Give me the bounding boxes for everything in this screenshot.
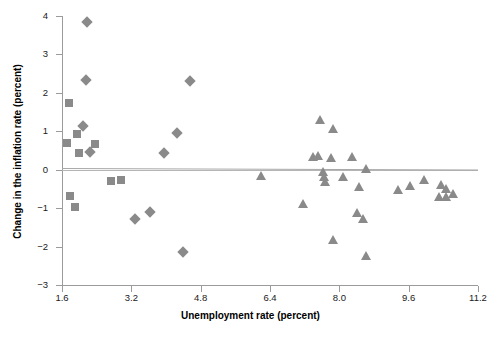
data-point-diamond: [129, 213, 140, 224]
data-point-triangle: [361, 164, 371, 173]
x-axis-tick-label: 4.8: [181, 292, 221, 303]
data-point-triangle: [328, 124, 338, 133]
x-axis-tick-label: 6.4: [250, 292, 290, 303]
data-point-triangle: [315, 115, 325, 124]
data-point-triangle: [338, 172, 348, 181]
data-point-triangle: [256, 171, 266, 180]
data-point-square: [65, 99, 73, 107]
data-point-diamond: [144, 206, 155, 217]
x-axis-tick-label: 8.0: [319, 292, 359, 303]
data-point-square: [107, 177, 115, 185]
y-axis-tick-label: −3: [26, 279, 48, 290]
data-point-diamond: [158, 147, 169, 158]
data-point-triangle: [358, 214, 368, 223]
y-axis-tick-label: −1: [26, 202, 48, 213]
x-axis-tick-label: 3.2: [111, 292, 151, 303]
y-axis-tick-label: 3: [26, 48, 48, 59]
data-point-square: [71, 203, 79, 211]
x-axis-tick-label: 9.6: [389, 292, 429, 303]
y-axis-tick-label: 1: [26, 125, 48, 136]
data-point-diamond: [81, 16, 92, 27]
data-point-triangle: [326, 153, 336, 162]
data-point-triangle: [313, 151, 323, 160]
data-point-diamond: [178, 246, 189, 257]
data-point-triangle: [347, 152, 357, 161]
data-point-square: [66, 192, 74, 200]
data-point-square: [63, 139, 71, 147]
data-point-square: [91, 140, 99, 148]
data-point-triangle: [361, 251, 371, 260]
y-axis-title: Change in the inflation rate (percent): [12, 32, 23, 272]
data-point-square: [75, 149, 83, 157]
y-axis-tick-label: 4: [26, 10, 48, 21]
data-point-triangle: [419, 175, 429, 184]
x-axis-tick-label: 11.2: [458, 292, 498, 303]
data-point-triangle: [405, 181, 415, 190]
data-point-square: [117, 176, 125, 184]
y-axis-tick-label: −2: [26, 241, 48, 252]
data-point-triangle: [328, 235, 338, 244]
scatter-chart: 43210−1−2−3 1.63.24.86.48.09.611.2 Unemp…: [0, 0, 501, 353]
data-point-diamond: [81, 75, 92, 86]
plot-area: [62, 16, 478, 285]
data-point-triangle: [298, 199, 308, 208]
data-point-triangle: [393, 185, 403, 194]
x-axis-title: Unemployment rate (percent): [0, 310, 501, 321]
data-point-triangle: [448, 189, 458, 198]
y-axis-tick-label: 2: [26, 87, 48, 98]
y-axis-tick-label: 0: [26, 164, 48, 175]
data-point-diamond: [184, 75, 195, 86]
x-axis-tick-label: 1.6: [42, 292, 82, 303]
data-point-triangle: [320, 177, 330, 186]
data-point-triangle: [354, 182, 364, 191]
data-point-square: [73, 130, 81, 138]
data-point-diamond: [171, 128, 182, 139]
